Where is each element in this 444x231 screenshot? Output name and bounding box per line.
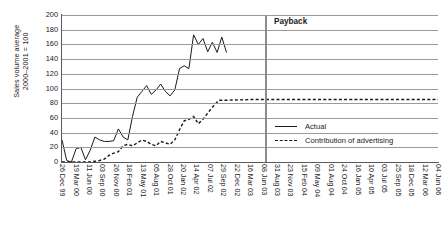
y-tick-label: 140 bbox=[28, 55, 58, 62]
y-tick-label: 20 bbox=[28, 143, 58, 150]
legend-item-actual: Actual bbox=[273, 120, 393, 132]
y-tick-label: 100 bbox=[28, 85, 58, 92]
legend-swatch-dashed-icon bbox=[273, 137, 299, 144]
x-tick-label: 29 Sep 02 bbox=[219, 164, 226, 196]
series-line-actual bbox=[62, 35, 227, 162]
x-tick-label: 05 Aug 01 bbox=[152, 164, 159, 196]
gridline bbox=[62, 103, 438, 104]
x-tick-label: 23 Nov 03 bbox=[286, 164, 293, 196]
legend-label-contribution: Contribution of advertising bbox=[305, 136, 393, 145]
payback-vline bbox=[265, 15, 267, 162]
gridline bbox=[62, 30, 438, 31]
x-tick-label: 13 May 01 bbox=[139, 164, 146, 197]
gridline bbox=[62, 118, 438, 119]
x-tick-label: 24 Oct 04 bbox=[340, 164, 347, 195]
y-tick-label: 80 bbox=[28, 99, 58, 106]
gridline bbox=[62, 59, 438, 60]
legend-label-actual: Actual bbox=[305, 122, 326, 131]
gridline bbox=[62, 74, 438, 75]
x-tick-label: 11 Jun 00 bbox=[85, 164, 92, 195]
payback-annotation-label: Payback bbox=[274, 17, 307, 26]
x-tick-label: 07 Jul 02 bbox=[206, 164, 213, 193]
x-tick-label: 25 Sep 05 bbox=[394, 164, 401, 196]
y-axis-line bbox=[61, 14, 62, 163]
y-tick-label: 200 bbox=[28, 11, 58, 18]
x-tick-label: 16 Jan 05 bbox=[354, 164, 361, 195]
y-tick-label: 60 bbox=[28, 114, 58, 121]
legend-swatch-solid-icon bbox=[273, 123, 299, 130]
x-tick-label: 19 Mar 00 bbox=[72, 164, 79, 196]
chart-container: Sales volume average 2000–2001 = 100 200… bbox=[0, 0, 444, 231]
x-tick-label: 14 Apr 02 bbox=[192, 164, 199, 194]
x-tick-label: 31 Aug 03 bbox=[273, 164, 280, 196]
y-tick-label: 160 bbox=[28, 40, 58, 47]
x-tick-label: 12 Mar 06 bbox=[421, 164, 428, 196]
y-axis-label-line1: Sales volume average bbox=[12, 25, 21, 98]
x-tick-label: 26 Nov 00 bbox=[112, 164, 119, 196]
x-tick-label: 22 Dec 02 bbox=[233, 164, 240, 196]
gridline bbox=[62, 15, 438, 16]
y-tick-label: 0 bbox=[28, 158, 58, 165]
x-axis-ticks: 26 Dec 9919 Mar 0011 Jun 0003 Sep 0026 N… bbox=[62, 164, 438, 230]
x-tick-label: 10 Apr 05 bbox=[367, 164, 374, 194]
x-tick-label: 04 Jun 06 bbox=[434, 164, 441, 195]
x-tick-label: 03 Jul 05 bbox=[380, 164, 387, 193]
y-tick-label: 180 bbox=[28, 26, 58, 33]
x-tick-label: 03 Sep 00 bbox=[98, 164, 105, 196]
x-tick-label: 09 May 04 bbox=[313, 164, 320, 197]
chart-legend: Actual Contribution of advertising bbox=[273, 120, 393, 148]
x-tick-label: 28 Oct 01 bbox=[166, 164, 173, 195]
x-tick-label: 26 Dec 99 bbox=[58, 164, 65, 196]
x-tick-label: 16 Mar 03 bbox=[246, 164, 253, 196]
x-tick-label: 01 Aug 04 bbox=[327, 164, 334, 196]
y-tick-label: 120 bbox=[28, 70, 58, 77]
x-tick-label: 18 Feb 01 bbox=[125, 164, 132, 196]
x-axis-line bbox=[61, 162, 439, 163]
x-tick-label: 20 Jan 02 bbox=[179, 164, 186, 195]
legend-item-contribution: Contribution of advertising bbox=[273, 134, 393, 146]
gridline bbox=[62, 44, 438, 45]
x-tick-label: 08 Jun 03 bbox=[260, 164, 267, 195]
x-tick-label: 18 Dec 05 bbox=[407, 164, 414, 196]
x-tick-label: 15 Feb 04 bbox=[300, 164, 307, 196]
y-axis-ticks: 200180160140120100806040200 bbox=[28, 0, 58, 231]
y-tick-label: 40 bbox=[28, 129, 58, 136]
gridline bbox=[62, 89, 438, 90]
